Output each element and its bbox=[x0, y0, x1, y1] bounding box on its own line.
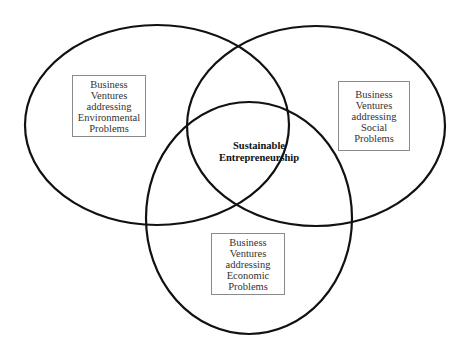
environmental-line-4: Environmental bbox=[78, 112, 140, 123]
economic-line-4: Economic bbox=[227, 270, 270, 281]
social-line-1: Business bbox=[355, 89, 392, 100]
social-line-3: addressing bbox=[352, 111, 397, 122]
social-line-5: Problems bbox=[354, 133, 394, 144]
social-line-4: Social bbox=[361, 122, 387, 133]
venn-diagram bbox=[0, 0, 471, 350]
social-line-2: Ventures bbox=[356, 100, 393, 111]
environmental-line-2: Ventures bbox=[91, 90, 128, 101]
economic-line-3: addressing bbox=[226, 259, 271, 270]
environmental-ellipse bbox=[25, 25, 289, 225]
sustainable-entrepreneurship-label: Sustainable Entrepreneurship bbox=[204, 140, 314, 164]
intersection-line-2: Entrepreneurship bbox=[204, 152, 314, 164]
economic-line-5: Problems bbox=[228, 281, 268, 292]
economic-label-box: Business Ventures addressing Economic Pr… bbox=[211, 233, 285, 295]
economic-line-2: Ventures bbox=[230, 248, 267, 259]
environmental-line-1: Business bbox=[90, 79, 127, 90]
environmental-line-5: Problems bbox=[89, 123, 129, 134]
intersection-line-1: Sustainable bbox=[204, 140, 314, 152]
environmental-label-box: Business Ventures addressing Environment… bbox=[72, 75, 146, 137]
economic-line-1: Business bbox=[229, 237, 266, 248]
economic-ellipse bbox=[146, 102, 352, 334]
social-label-box: Business Ventures addressing Social Prob… bbox=[338, 81, 410, 151]
environmental-line-3: addressing bbox=[87, 101, 132, 112]
